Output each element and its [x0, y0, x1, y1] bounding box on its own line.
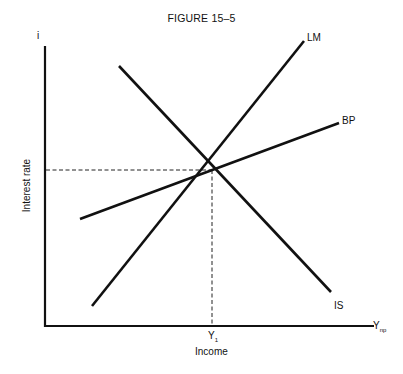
lm-label: LM	[307, 32, 321, 43]
x-axis-symbol: Ynp	[373, 320, 386, 333]
bp-curve	[80, 123, 339, 219]
equilibrium-tick-label: Y1	[208, 330, 218, 343]
y-axis-symbol: i	[37, 30, 39, 41]
is-label: IS	[334, 300, 343, 311]
y-axis-label: Interest rate	[21, 146, 32, 226]
bp-label: BP	[342, 115, 355, 126]
is-curve	[119, 66, 331, 292]
is-lm-bp-chart	[0, 0, 403, 374]
lm-curve	[92, 41, 304, 306]
x-axis-label: Income	[195, 346, 228, 357]
